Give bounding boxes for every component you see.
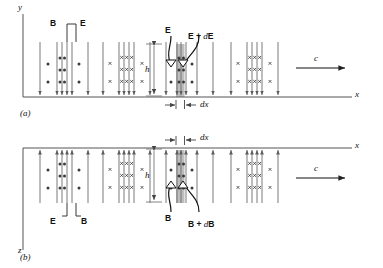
b-dots-a-g1 <box>47 57 81 84</box>
e-crosses-b-g4 <box>237 162 272 189</box>
h-label-b: h <box>145 171 150 180</box>
callout-label-b-b: B <box>81 217 87 226</box>
b-crosses-a-g2 <box>109 56 144 83</box>
em-wave-figure: y x B E E E + dE h dx c (a) z x E B B B … <box>0 0 383 268</box>
field-lines-a-g2 <box>103 42 150 95</box>
dx-label-a: dx <box>200 100 209 109</box>
e-dots-b-g1 <box>47 163 81 190</box>
panel-label-b: (b) <box>20 253 31 262</box>
field-lines-a-g4 <box>231 42 278 95</box>
dx-dimension-a <box>165 100 196 109</box>
axis-label-x-a: x <box>355 90 359 99</box>
h-label-a: h <box>145 65 150 74</box>
leader-b-b <box>168 186 171 212</box>
field-lines-a-g3 <box>166 42 213 95</box>
dx-label-b: dx <box>200 133 209 142</box>
callout-bracket-b <box>62 203 81 216</box>
leader-e-a <box>168 36 171 62</box>
slab-label-e-a: E <box>165 26 171 35</box>
callout-label-b-a: B <box>50 19 56 28</box>
panel-b <box>23 136 352 250</box>
slab-label-bdb-b: B + dB <box>188 214 214 230</box>
callout-label-e-b: E <box>50 217 56 226</box>
slab-label-b-b: B <box>165 214 171 223</box>
axis-label-x-b: x <box>355 141 359 150</box>
axis-label-y: y <box>18 3 22 12</box>
field-lines-b-g3 <box>166 150 213 203</box>
field-lines-b-g4 <box>231 150 278 203</box>
c-label-a: c <box>314 54 318 63</box>
b-crosses-a-g4 <box>237 56 272 83</box>
c-label-b: c <box>314 164 318 173</box>
field-lines-b-g2 <box>103 150 150 203</box>
dx-dimension-b <box>165 136 196 145</box>
slab-label-ede-a: E + dE <box>188 26 214 42</box>
field-lines-a-g1 <box>40 42 88 95</box>
panel-label-a: (a) <box>20 109 31 118</box>
callout-label-e-a: E <box>80 19 86 28</box>
callout-bracket-a <box>67 24 76 42</box>
e-crosses-b-g2 <box>109 162 144 189</box>
